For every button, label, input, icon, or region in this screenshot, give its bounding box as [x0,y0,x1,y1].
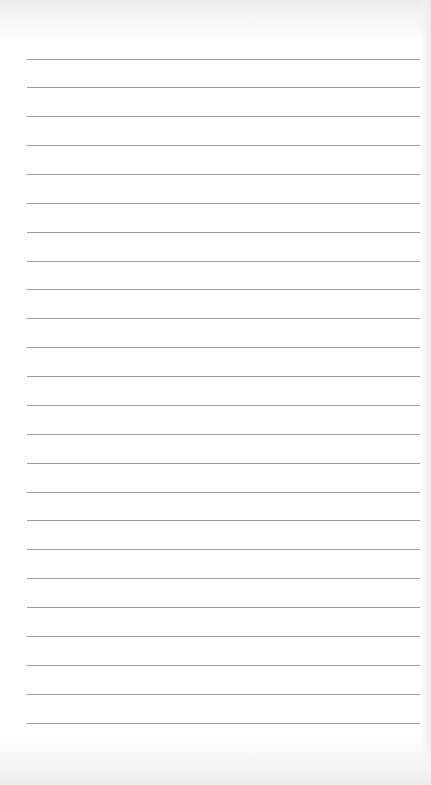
ruled-line [27,87,420,88]
ruled-line [27,665,420,666]
ruled-line [27,636,420,637]
ruled-line [27,405,420,406]
ruled-line [27,492,420,493]
ruled-line [27,463,420,464]
ruled-line [27,694,420,695]
ruled-line [27,376,420,377]
ruled-line [27,520,420,521]
ruled-line [27,607,420,608]
ruled-line [27,232,420,233]
ruled-line [27,289,420,290]
ruled-line [27,203,420,204]
ruled-line [27,434,420,435]
notepad-sheet [0,0,431,785]
ruled-line [27,318,420,319]
ruled-line [27,145,420,146]
ruled-line [27,347,420,348]
ruled-line [27,578,420,579]
ruled-line [27,723,420,724]
ruled-line [27,116,420,117]
ruled-lines [0,0,431,785]
ruled-line [27,549,420,550]
ruled-line [27,174,420,175]
ruled-line [27,59,420,60]
ruled-line [27,261,420,262]
